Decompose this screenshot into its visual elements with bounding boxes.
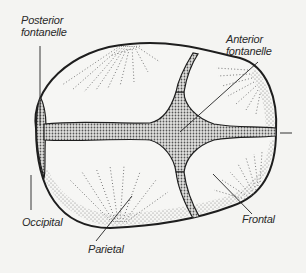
label-parietal: Parietal (88, 243, 124, 255)
label-frontal: Frontal (242, 213, 275, 225)
label-posterior-fontanelle: Posterior fontanelle (21, 14, 67, 38)
label-line-1: Posterior (21, 14, 67, 26)
label-occipital: Occipital (22, 216, 62, 228)
label-line-1: Anterior (226, 33, 272, 45)
skull-diagram: Posterior fontanelle Anterior fontanelle… (0, 0, 306, 273)
label-line-2: fontanelle (21, 26, 67, 38)
label-anterior-fontanelle: Anterior fontanelle (226, 33, 272, 57)
label-line-2: fontanelle (226, 45, 272, 57)
